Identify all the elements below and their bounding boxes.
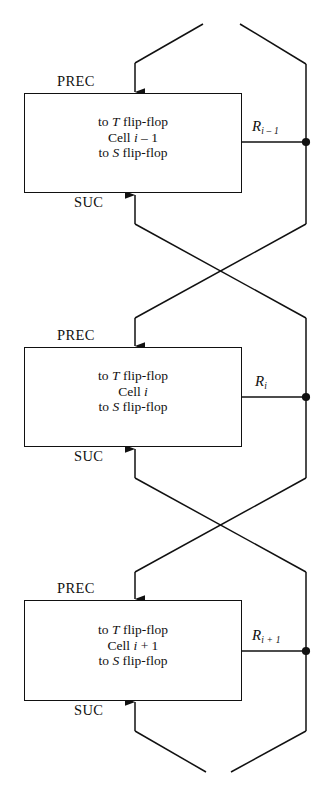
port-label-prec-1: PREC: [57, 73, 95, 90]
output-label-r-i: Ri: [255, 373, 267, 390]
port-label-suc-2: SUC: [74, 448, 103, 465]
wire-r3-bottom-diagonal: [231, 731, 306, 772]
wire-prec-top-diagonal: [135, 24, 203, 63]
wire-r1-top-diagonal: [240, 24, 306, 64]
cell-text-i-minus-1: to T flip-flop Cell i – 1 to S flip-flop: [24, 114, 242, 161]
cell-line-flipflop-t: to T flip-flop: [24, 368, 242, 384]
cell-line-flipflop-t: to T flip-flop: [24, 114, 242, 130]
node-dot-r-i-minus-1: [302, 138, 310, 146]
port-label-suc-1: SUC: [74, 194, 103, 211]
node-dot-r-i-plus-1: [302, 647, 310, 655]
diagram-canvas: to T flip-flop Cell i – 1 to S flip-flop…: [0, 0, 327, 798]
cell-line-name: Cell i + 1: [24, 638, 242, 654]
cell-line-flipflop-s: to S flip-flop: [24, 145, 242, 161]
port-label-prec-2: PREC: [57, 327, 95, 344]
cell-line-name: Cell i: [24, 384, 242, 400]
port-label-prec-3: PREC: [57, 580, 95, 597]
node-dot-r-i: [302, 393, 310, 401]
cell-line-flipflop-t: to T flip-flop: [24, 622, 242, 638]
output-label-r-i-plus-1: Ri + 1: [252, 627, 281, 644]
port-label-suc-3: SUC: [74, 702, 103, 719]
cell-text-i: to T flip-flop Cell i to S flip-flop: [24, 368, 242, 415]
cell-line-flipflop-s: to S flip-flop: [24, 653, 242, 669]
cell-line-flipflop-s: to S flip-flop: [24, 399, 242, 415]
cell-text-i-plus-1: to T flip-flop Cell i + 1 to S flip-flop: [24, 622, 242, 669]
cell-line-name: Cell i – 1: [24, 130, 242, 146]
output-label-r-i-minus-1: Ri – 1: [252, 118, 279, 135]
wire-suc-3-bottom-diagonal: [135, 731, 206, 772]
